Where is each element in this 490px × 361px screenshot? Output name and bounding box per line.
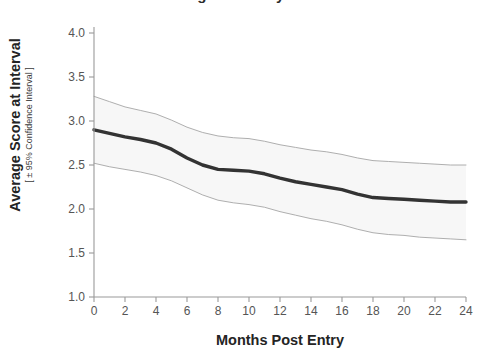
y-tick-label: 1.5 <box>51 247 85 259</box>
x-tick-label: 6 <box>174 305 200 317</box>
y-tick-label: 1.0 <box>51 291 85 303</box>
y-tick-label: 4.0 <box>51 27 85 39</box>
x-tick-label: 8 <box>205 305 231 317</box>
x-tick-label: 4 <box>143 305 169 317</box>
x-tick-label: 2 <box>112 305 138 317</box>
y-tick-label: 3.5 <box>51 71 85 83</box>
x-tick-label: 16 <box>329 305 355 317</box>
y-tick-label: 2.5 <box>51 159 85 171</box>
y-tick-label: 2.0 <box>51 203 85 215</box>
x-tick-label: 10 <box>236 305 262 317</box>
x-tick-label: 0 <box>81 305 107 317</box>
x-tick-label: 14 <box>298 305 324 317</box>
x-tick-label: 22 <box>422 305 448 317</box>
chart-figure: Average Score by Month Average Score at … <box>0 0 490 361</box>
confidence-band-fill <box>94 96 466 239</box>
x-tick-label: 20 <box>391 305 417 317</box>
x-tick-label: 12 <box>267 305 293 317</box>
y-tick-label: 3.0 <box>51 115 85 127</box>
x-tick-label: 24 <box>453 305 479 317</box>
confidence-band <box>94 96 466 239</box>
x-tick-label: 18 <box>360 305 386 317</box>
